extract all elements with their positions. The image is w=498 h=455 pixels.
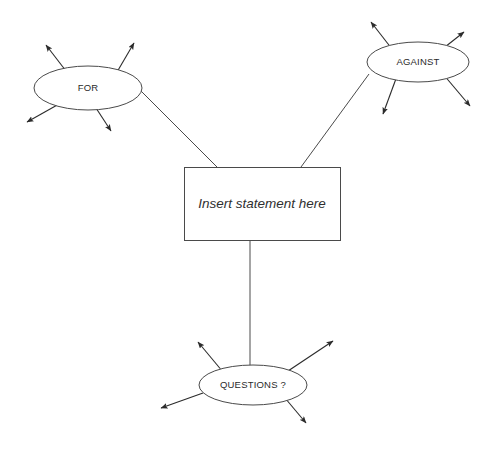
- connector-for-to-statement: [141, 91, 217, 167]
- for-spoke-upper-left: [46, 45, 66, 71]
- for-spoke-lower-right: [96, 108, 111, 131]
- diagram-canvas: FOR AGAINST QUESTIONS ? Insert statement…: [0, 0, 498, 455]
- questions-spoke-left: [161, 393, 203, 408]
- statement-box[interactable]: Insert statement here: [185, 168, 341, 241]
- for-spoke-lower-left: [27, 104, 59, 122]
- node-questions[interactable]: QUESTIONS ?: [199, 365, 307, 405]
- questions-spoke-lower-right: [285, 398, 306, 423]
- node-against-label: AGAINST: [396, 56, 439, 67]
- connector-against-to-statement: [301, 74, 369, 167]
- node-for-label: FOR: [78, 82, 99, 93]
- questions-spoke-upper-left: [198, 342, 223, 372]
- diagram-svg: FOR AGAINST QUESTIONS ? Insert statement…: [0, 0, 498, 455]
- node-for[interactable]: FOR: [34, 66, 142, 110]
- node-questions-label: QUESTIONS ?: [220, 379, 286, 390]
- against-spoke-lower-left: [383, 76, 397, 114]
- for-spoke-upper-right: [117, 43, 134, 72]
- questions-spoke-upper-right: [288, 341, 333, 371]
- against-spoke-upper-right: [445, 32, 464, 47]
- statement-box-label: Insert statement here: [198, 196, 326, 211]
- against-spoke-upper-left: [371, 22, 392, 49]
- node-against[interactable]: AGAINST: [367, 42, 469, 82]
